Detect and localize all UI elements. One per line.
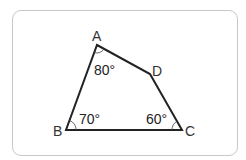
angle-value-a: 80°	[94, 62, 115, 78]
vertex-label-a: A	[92, 28, 102, 44]
vertex-label-b: B	[53, 123, 62, 139]
vertex-label-d: D	[152, 63, 162, 79]
quadrilateral-diagram: A B C D 80° 70° 60°	[0, 0, 246, 160]
angle-arc-c	[172, 121, 177, 130]
angle-arc-b	[70, 121, 77, 131]
vertex-label-c: C	[185, 123, 195, 139]
angle-value-b: 70°	[79, 111, 100, 127]
angle-value-c: 60°	[146, 111, 167, 127]
